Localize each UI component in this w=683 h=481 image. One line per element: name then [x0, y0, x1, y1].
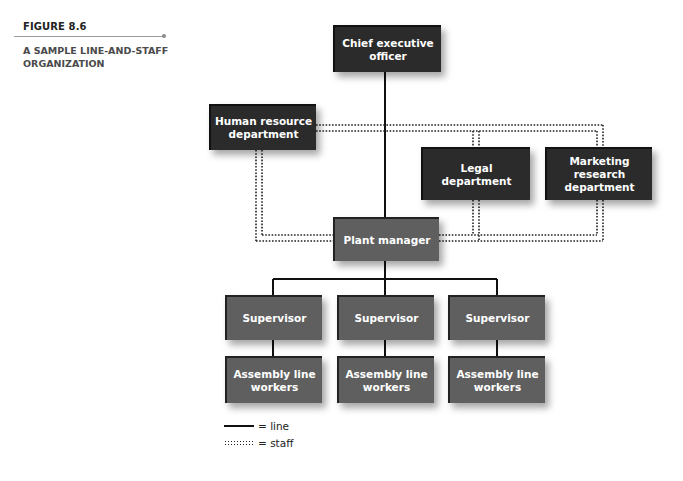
box-legal-label: Legal department — [442, 162, 512, 188]
box-supervisor: Supervisor — [448, 295, 545, 340]
box-assembly-workers: Assembly line workers — [337, 356, 434, 403]
box-workers-label: Assembly line workers — [456, 368, 538, 394]
box-marketing-research-department: Marketing research department — [545, 147, 652, 200]
legend-staff: = staff — [224, 437, 293, 449]
legend-staff-label: = staff — [258, 437, 293, 449]
dotted-line-icon — [224, 440, 254, 446]
legend-line: = line — [224, 420, 289, 432]
box-hr-label: Human resource department — [215, 115, 312, 141]
box-legal-department: Legal department — [421, 147, 530, 200]
box-plant-manager: Plant manager — [333, 217, 439, 261]
solid-line-icon — [224, 425, 254, 427]
legend-line-label: = line — [258, 420, 289, 432]
box-supervisor: Supervisor — [225, 295, 322, 340]
box-ceo-label: Chief executive officer — [342, 37, 433, 63]
box-supervisor-label: Supervisor — [355, 312, 419, 325]
box-assembly-workers: Assembly line workers — [225, 356, 322, 403]
box-hr-department: Human resource department — [209, 104, 316, 150]
box-supervisor-label: Supervisor — [243, 312, 307, 325]
box-supervisor: Supervisor — [337, 295, 434, 340]
box-ceo: Chief executive officer — [333, 25, 441, 72]
box-plant-manager-label: Plant manager — [344, 234, 431, 247]
box-marketing-label: Marketing research department — [565, 155, 635, 194]
box-workers-label: Assembly line workers — [233, 368, 315, 394]
box-assembly-workers: Assembly line workers — [448, 356, 545, 403]
box-workers-label: Assembly line workers — [345, 368, 427, 394]
box-supervisor-label: Supervisor — [466, 312, 530, 325]
